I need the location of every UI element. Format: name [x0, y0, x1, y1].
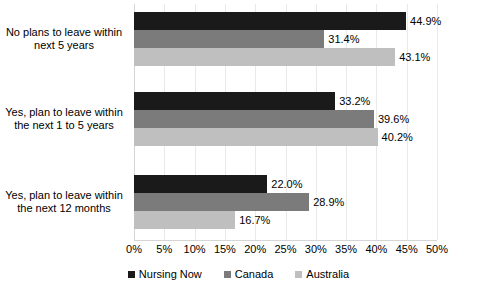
category-label-line: Yes, plan to leave within — [0, 106, 128, 119]
bar-value-label: 28.9% — [313, 197, 344, 208]
bar-value-label: 31.4% — [328, 34, 359, 45]
bar-row: 22.0% — [134, 175, 437, 193]
bar-value-label: 33.2% — [339, 96, 370, 107]
legend-label: Nursing Now — [139, 268, 202, 281]
x-tick-label: 25% — [274, 243, 296, 256]
bar-australia[interactable] — [134, 48, 395, 66]
x-axis-line — [134, 240, 437, 241]
category-label: No plans to leave withinnext 5 years — [0, 26, 128, 52]
bar-value-label: 16.7% — [239, 215, 270, 226]
category-label-line: next 5 years — [0, 39, 128, 52]
legend-item-australia[interactable]: Australia — [295, 268, 349, 281]
legend-item-nursing-now[interactable]: Nursing Now — [128, 268, 202, 281]
bar-group: 22.0%28.9%16.7% — [134, 175, 437, 229]
chart-legend: Nursing NowCanadaAustralia — [0, 268, 477, 281]
x-tick-label: 10% — [184, 243, 206, 256]
bar-value-label: 40.2% — [382, 132, 413, 143]
bar-australia[interactable] — [134, 211, 235, 229]
bar-row: 40.2% — [134, 128, 437, 146]
bar-nursing-now[interactable] — [134, 12, 406, 30]
bar-canada[interactable] — [134, 30, 324, 48]
bar-row: 44.9% — [134, 12, 437, 30]
bar-nursing-now[interactable] — [134, 175, 267, 193]
bar-row: 28.9% — [134, 193, 437, 211]
bar-group: 44.9%31.4%43.1% — [134, 12, 437, 66]
gridline-50% — [437, 4, 438, 240]
bar-group: 33.2%39.6%40.2% — [134, 92, 437, 146]
bar-row: 31.4% — [134, 30, 437, 48]
bar-row: 33.2% — [134, 92, 437, 110]
legend-label: Australia — [306, 268, 349, 281]
x-tick-label: 35% — [335, 243, 357, 256]
bar-nursing-now[interactable] — [134, 92, 335, 110]
x-tick-label: 50% — [426, 243, 448, 256]
bar-value-label: 39.6% — [378, 114, 409, 125]
horizontal-bar-chart: 44.9%31.4%43.1%33.2%39.6%40.2%22.0%28.9%… — [0, 0, 477, 292]
bar-value-label: 43.1% — [399, 52, 430, 63]
x-tick-label: 40% — [365, 243, 387, 256]
bar-value-label: 22.0% — [271, 179, 302, 190]
category-label-line: No plans to leave within — [0, 26, 128, 39]
legend-swatch-icon — [128, 271, 135, 278]
bar-row: 39.6% — [134, 110, 437, 128]
bar-value-label: 44.9% — [410, 16, 441, 27]
legend-swatch-icon — [224, 271, 231, 278]
x-tick-label: 5% — [156, 243, 172, 256]
category-label-line: the next 12 months — [0, 202, 128, 215]
category-label: Yes, plan to leave withinthe next 12 mon… — [0, 189, 128, 215]
category-label: Yes, plan to leave withinthe next 1 to 5… — [0, 106, 128, 132]
x-tick-label: 30% — [305, 243, 327, 256]
bar-row: 43.1% — [134, 48, 437, 66]
plot-area: 44.9%31.4%43.1%33.2%39.6%40.2%22.0%28.9%… — [134, 4, 437, 240]
bar-row: 16.7% — [134, 211, 437, 229]
x-tick-label: 45% — [396, 243, 418, 256]
x-tick-label: 20% — [244, 243, 266, 256]
legend-item-canada[interactable]: Canada — [224, 268, 274, 281]
x-tick-label: 0% — [126, 243, 142, 256]
bar-australia[interactable] — [134, 128, 378, 146]
legend-label: Canada — [235, 268, 274, 281]
x-axis-tick-labels: 0%5%10%15%20%25%30%35%40%45%50% — [134, 243, 437, 257]
bar-canada[interactable] — [134, 110, 374, 128]
bar-canada[interactable] — [134, 193, 309, 211]
x-tick-label: 15% — [214, 243, 236, 256]
legend-swatch-icon — [295, 271, 302, 278]
category-label-line: the next 1 to 5 years — [0, 119, 128, 132]
category-label-line: Yes, plan to leave within — [0, 189, 128, 202]
